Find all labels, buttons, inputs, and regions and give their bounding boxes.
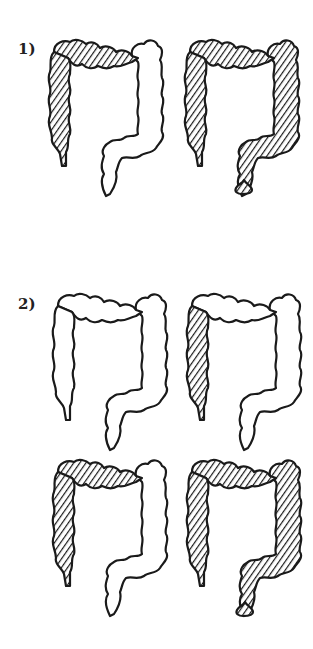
colon-diagram-canvas (0, 0, 313, 649)
section-2-full-colon (187, 460, 302, 616)
section-2-ascending-colon (187, 294, 302, 450)
section-1-right-colon (185, 40, 300, 196)
section-2-empty-colon (53, 294, 168, 450)
section-1-left-colon (49, 40, 164, 196)
section-2-partial-colon (53, 460, 168, 616)
